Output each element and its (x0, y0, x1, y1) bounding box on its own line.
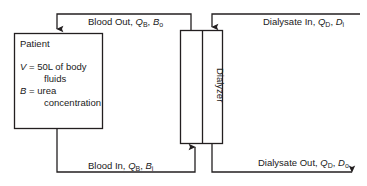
patient-parameter-volume: V = 50L of body (20, 61, 101, 73)
dialysis-flow-diagram: Patient V = 50L of body fluids B = urea … (0, 0, 367, 186)
dialysate-in-flowrate-subscript: D (325, 21, 330, 28)
volume-value-continued: fluids (20, 73, 101, 85)
patient-box-title: Patient (20, 38, 50, 50)
patient-parameter-concentration: B = urea (20, 85, 101, 97)
dialyzer-box-label: Dialyzer (214, 68, 226, 102)
blood-in-concentration-symbol: B (145, 160, 151, 171)
dialysate-out-text: Dialysate Out, (258, 157, 320, 168)
volume-value: 50L of body (37, 61, 86, 72)
concentration-relation: = (29, 85, 35, 96)
blood-in-flowrate-symbol: Q (128, 160, 135, 171)
dialysate-in-concentration-subscript: i (343, 21, 345, 28)
concentration-value-continued: concentration (20, 97, 101, 109)
dialysate-out-label: Dialysate Out, QD, Do (258, 157, 349, 169)
dialysate-out-concentration-symbol: D (338, 157, 345, 168)
blood-out-flowrate-subscript: B (143, 21, 148, 28)
concentration-symbol: B (20, 85, 26, 96)
dialysate-in-label: Dialysate In, QD, Di (263, 16, 344, 28)
blood-out-flowrate-symbol: Q (136, 16, 143, 27)
blood-in-label: Blood In, QB, Bi (88, 160, 153, 172)
patient-box-parameters: V = 50L of body fluids B = urea concentr… (20, 61, 101, 109)
concentration-value: urea (37, 85, 56, 96)
blood-out-text: Blood Out, (88, 16, 136, 27)
volume-relation: = (29, 61, 35, 72)
blood-in-flowrate-subscript: B (136, 165, 141, 172)
blood-in-concentration-subscript: i (152, 165, 154, 172)
blood-out-concentration-subscript: o (159, 21, 163, 28)
dialysate-out-flowrate-symbol: Q (320, 157, 327, 168)
volume-symbol: V (20, 61, 26, 72)
dialysate-out-flowrate-subscript: D (328, 162, 333, 169)
dialysate-in-text: Dialysate In, (263, 16, 318, 27)
dialysate-in-concentration-symbol: D (336, 16, 343, 27)
blood-out-label: Blood Out, QB, Bo (88, 16, 163, 28)
blood-in-text: Blood In, (88, 160, 128, 171)
dialysate-out-concentration-subscript: o (345, 162, 349, 169)
